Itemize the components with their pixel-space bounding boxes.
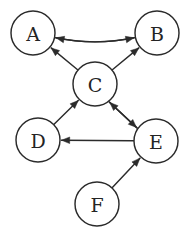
node-label-e: E (149, 131, 163, 153)
graph-canvas: ABCDEF (0, 0, 190, 237)
edge-a-to-b (55, 38, 134, 42)
directed-graph-figure: ABCDEF (0, 0, 190, 237)
graph-node-f[interactable]: F (75, 182, 119, 226)
node-label-b: B (150, 23, 164, 45)
graph-node-a[interactable]: A (11, 11, 55, 55)
edge-a-to-b-arrowhead-icon (125, 36, 134, 42)
node-label-a: A (25, 23, 40, 45)
edge-layer (51, 36, 140, 187)
graph-node-b[interactable]: B (135, 11, 179, 55)
graph-node-c[interactable]: C (73, 62, 117, 106)
node-label-d: D (30, 130, 45, 152)
graph-node-d[interactable]: D (16, 118, 60, 162)
node-label-f: F (90, 194, 103, 216)
node-label-c: C (88, 74, 103, 96)
graph-node-e[interactable]: E (134, 119, 178, 163)
edge-e-to-d (61, 140, 133, 141)
edge-e-to-d-arrowhead-icon (61, 137, 69, 144)
node-layer: ABCDEF (11, 11, 179, 226)
